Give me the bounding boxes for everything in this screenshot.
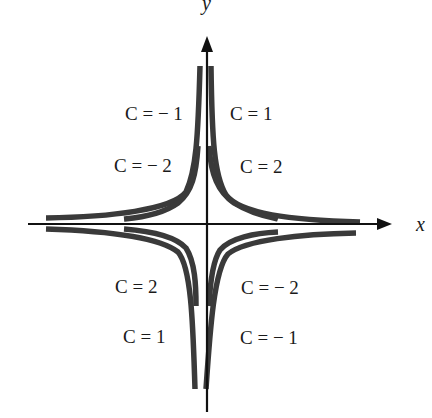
hyperbola-diagram: y x C = − 1 C = 1 C = − 2 C = 2 C = 2 C … xyxy=(0,0,432,418)
label-q1-inner: C = 2 xyxy=(240,156,282,177)
label-q4-outer: C = − 1 xyxy=(240,327,298,348)
y-axis-arrowhead xyxy=(201,36,213,52)
label-q2-outer: C = − 1 xyxy=(125,103,183,124)
curve-q2-cneg1 xyxy=(46,66,200,218)
curve-q4-cneg1 xyxy=(206,233,356,389)
curves xyxy=(46,66,360,389)
label-q3-outer: C = 1 xyxy=(123,326,165,347)
curve-q3-c1 xyxy=(46,229,195,389)
label-q2-inner: C = − 2 xyxy=(114,155,172,176)
x-axis-arrowhead xyxy=(377,218,392,230)
curve-q1-c1 xyxy=(211,66,360,222)
label-q1-outer: C = 1 xyxy=(230,103,272,124)
y-axis-label: y xyxy=(200,0,211,15)
label-q4-inner: C = − 2 xyxy=(241,277,299,298)
x-axis-label: x xyxy=(415,213,425,235)
label-q3-inner: C = 2 xyxy=(115,276,157,297)
